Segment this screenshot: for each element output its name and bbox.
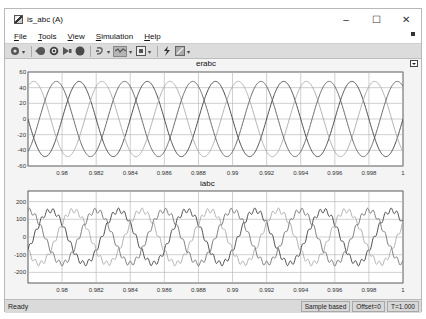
undock-icon[interactable] xyxy=(411,32,415,36)
scope-plots[interactable]: 0.980.9820.9840.9860.9880.990.9920.9940.… xyxy=(5,59,423,299)
toolbar-separator xyxy=(90,46,91,57)
scope-window: is_abc (A) – ☐ ✕ File Tools View Simulat… xyxy=(4,8,422,312)
minimize-button[interactable]: – xyxy=(331,9,361,29)
toolbar: ▾ ▾ ▾ ▾ ▾ xyxy=(5,43,421,59)
gear-icon xyxy=(10,46,20,56)
x-tick-label: 0.986 xyxy=(157,287,173,293)
y-tick-label: -60 xyxy=(17,163,26,169)
measure-icon xyxy=(175,46,185,56)
x-tick-label: 0.986 xyxy=(157,170,173,176)
triggers-button[interactable] xyxy=(161,46,172,57)
x-tick-label: 0.982 xyxy=(89,287,105,293)
highlight-icon xyxy=(95,46,105,56)
y-tick-label: 20 xyxy=(19,100,26,106)
x-tick-label: 0.988 xyxy=(191,287,207,293)
menu-help[interactable]: Help xyxy=(144,32,160,41)
plot-area: erabc iabc 0.980.9820.9840.9860.9880.990… xyxy=(5,59,421,299)
toolbar-separator xyxy=(157,46,158,57)
stop-icon xyxy=(75,46,85,56)
x-tick-label: 0.992 xyxy=(259,170,275,176)
step-back-icon xyxy=(35,46,46,56)
chevron-down-icon[interactable]: ▾ xyxy=(148,48,151,55)
toolbar-separator xyxy=(31,46,32,57)
cursor-measurements-button[interactable] xyxy=(174,46,185,57)
y-tick-label: -40 xyxy=(17,147,26,153)
stop-button[interactable] xyxy=(74,46,85,57)
x-tick-label: 0.996 xyxy=(327,287,343,293)
y-tick-label: 0 xyxy=(23,234,27,240)
x-tick-label: 0.984 xyxy=(123,170,139,176)
window-title: is_abc (A) xyxy=(27,15,63,24)
y-tick-label: 100 xyxy=(16,216,27,222)
run-button[interactable] xyxy=(48,46,59,57)
time-offset: Offset=0 xyxy=(352,301,385,312)
status-ready: Ready xyxy=(8,303,28,310)
window-controls: – ☐ ✕ xyxy=(331,9,421,29)
x-tick-label: 0.982 xyxy=(89,170,105,176)
autoscale-icon xyxy=(136,46,146,56)
x-tick-label: 1 xyxy=(401,170,405,176)
status-cells: Sample based Offset=0 T=1.000 xyxy=(299,301,419,312)
x-tick-label: 0.996 xyxy=(327,170,343,176)
step-forward-button[interactable] xyxy=(61,46,72,57)
step-back-button[interactable] xyxy=(35,46,46,57)
close-button[interactable]: ✕ xyxy=(391,9,421,29)
y-tick-label: -20 xyxy=(17,132,26,138)
x-tick-label: 0.99 xyxy=(227,170,239,176)
run-icon xyxy=(49,46,59,56)
x-tick-label: 0.99 xyxy=(227,287,239,293)
simulation-time: T=1.000 xyxy=(387,301,419,312)
x-tick-label: 0.988 xyxy=(191,170,207,176)
x-tick-label: 0.992 xyxy=(259,287,275,293)
menu-bar: File Tools View Simulation Help xyxy=(5,29,421,43)
status-bar: Ready Sample based Offset=0 T=1.000 xyxy=(5,299,421,313)
sample-mode: Sample based xyxy=(301,301,351,312)
y-tick-label: 40 xyxy=(19,85,26,91)
zoom-button[interactable] xyxy=(113,46,127,57)
y-tick-label: -200 xyxy=(14,269,27,275)
x-tick-label: 0.984 xyxy=(123,287,139,293)
menu-tools[interactable]: Tools xyxy=(38,32,57,41)
chevron-down-icon[interactable]: ▾ xyxy=(107,48,110,55)
axes-iabc[interactable]: 0.980.9820.9840.9860.9880.990.9920.9940.… xyxy=(14,191,405,293)
y-tick-label: 200 xyxy=(16,199,27,205)
x-tick-label: 0.994 xyxy=(293,170,309,176)
menu-simulation[interactable]: Simulation xyxy=(96,32,133,41)
trigger-icon xyxy=(162,46,172,56)
scope-app-icon xyxy=(14,15,23,24)
x-tick-label: 0.98 xyxy=(56,287,68,293)
zoom-icon xyxy=(115,47,126,55)
chevron-down-icon[interactable]: ▾ xyxy=(129,48,132,55)
y-tick-label: -100 xyxy=(14,252,27,258)
chevron-down-icon[interactable]: ▾ xyxy=(187,48,190,55)
autoscale-button[interactable] xyxy=(135,46,146,57)
x-tick-label: 0.98 xyxy=(56,170,68,176)
title-bar[interactable]: is_abc (A) – ☐ ✕ xyxy=(5,9,421,29)
chevron-down-icon[interactable]: ▾ xyxy=(22,48,25,55)
menu-file[interactable]: File xyxy=(14,32,27,41)
x-tick-label: 0.994 xyxy=(293,287,309,293)
highlight-block-button[interactable] xyxy=(94,46,105,57)
step-forward-icon xyxy=(62,46,72,56)
x-tick-label: 1 xyxy=(401,287,405,293)
x-tick-label: 0.998 xyxy=(361,170,377,176)
x-tick-label: 0.998 xyxy=(361,287,377,293)
maximize-button[interactable]: ☐ xyxy=(361,9,391,29)
axes-erabc[interactable]: 0.980.9820.9840.9860.9880.990.9920.9940.… xyxy=(17,69,405,176)
y-tick-label: 0 xyxy=(23,116,27,122)
menu-view[interactable]: View xyxy=(68,32,85,41)
y-tick-label: 60 xyxy=(19,69,26,75)
configuration-properties-button[interactable] xyxy=(9,46,20,57)
